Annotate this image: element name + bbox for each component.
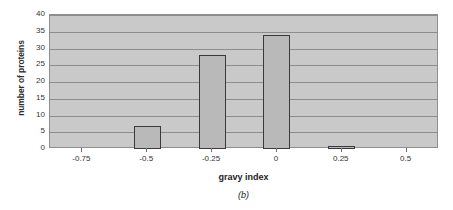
figure-caption: (b) bbox=[49, 190, 438, 200]
y-tick-label: 25 bbox=[24, 60, 45, 68]
x-tick-label: -0.75 bbox=[51, 154, 111, 163]
x-tick-mark bbox=[406, 148, 407, 152]
bar bbox=[134, 126, 161, 149]
bar bbox=[199, 55, 226, 149]
gridline bbox=[50, 32, 437, 33]
gridline bbox=[50, 15, 437, 16]
figure-panel-b: number of proteins 4035302520151050 -0.7… bbox=[0, 0, 453, 210]
plot-inner bbox=[50, 15, 437, 147]
y-tick-label: 20 bbox=[24, 77, 45, 85]
x-tick-mark bbox=[276, 148, 277, 152]
y-tick-label: 30 bbox=[24, 44, 45, 52]
y-axis-tick-labels: 4035302520151050 bbox=[24, 10, 45, 152]
x-tick-mark bbox=[81, 148, 82, 152]
x-tick-mark bbox=[146, 148, 147, 152]
x-tick-label: -0.25 bbox=[181, 154, 241, 163]
bar bbox=[263, 35, 290, 149]
gridline bbox=[50, 132, 437, 133]
bar bbox=[328, 146, 355, 149]
plot-area bbox=[49, 14, 438, 148]
x-tick-mark bbox=[341, 148, 342, 152]
x-tick-label: 0.25 bbox=[311, 154, 371, 163]
x-tick-label: 0.5 bbox=[376, 154, 436, 163]
x-axis-title: gravy index bbox=[49, 172, 438, 182]
gridline bbox=[50, 65, 437, 66]
gridline bbox=[50, 49, 437, 50]
gridline bbox=[50, 116, 437, 117]
y-tick-label: 35 bbox=[24, 27, 45, 35]
y-tick-label: 0 bbox=[24, 144, 45, 152]
x-tick-mark bbox=[211, 148, 212, 152]
y-tick-label: 10 bbox=[24, 111, 45, 119]
gridline bbox=[50, 82, 437, 83]
x-tick-label: 0 bbox=[246, 154, 306, 163]
y-tick-label: 5 bbox=[24, 127, 45, 135]
y-tick-label: 40 bbox=[24, 10, 45, 18]
y-tick-label: 15 bbox=[24, 94, 45, 102]
x-tick-label: -0.5 bbox=[116, 154, 176, 163]
gridline bbox=[50, 99, 437, 100]
